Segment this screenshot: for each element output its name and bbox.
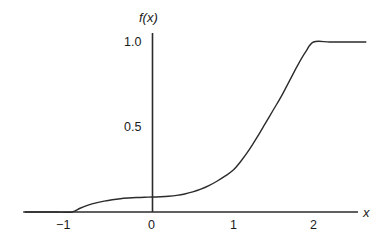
y-axis-title: f(x) [139,11,158,24]
x-tick-label-minus-1: −1 [56,219,70,232]
x-axis-title: x [363,206,370,219]
function-curve [24,41,366,212]
x-tick-label-1: 1 [230,219,237,232]
x-tick-label-0: 0 [148,219,155,232]
x-tick-label-2: 2 [310,219,317,232]
y-tick-label-0-5: 0.5 [124,121,142,134]
plot-canvas [0,0,390,246]
y-tick-label-1-0: 1.0 [124,36,142,49]
axis-lines [25,33,358,212]
function-plot-figure: f(x) x 1.0 0.5 −1 0 1 2 [0,0,390,246]
